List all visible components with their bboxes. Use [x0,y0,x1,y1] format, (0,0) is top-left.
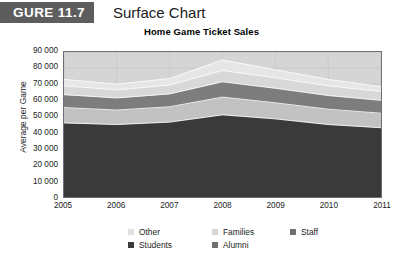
legend-label: Families [223,228,254,237]
legend-label: Staff [301,228,318,237]
legend-item-alumni[interactable]: Alumni [212,239,254,251]
legend-swatch-icon [128,229,134,235]
x-axis-tick-label: 2009 [267,201,285,210]
x-axis-tick-label: 2007 [160,201,178,210]
y-tick-text: 70 000 [0,80,58,88]
legend-column: Staff [290,226,318,239]
legend-item-families[interactable]: Families [212,226,254,238]
chart-legend: OtherStudentsFamiliesAlumniStaff [0,222,403,260]
legend-label: Students [139,241,172,250]
legend-item-other[interactable]: Other [128,226,172,238]
x-axis-tick-label: 2006 [107,201,125,210]
x-axis-tick-label: 2011 [373,201,391,210]
area-band-students [64,115,381,197]
x-axis-tick-label: 2010 [320,201,338,210]
legend-item-staff[interactable]: Staff [290,226,318,238]
y-tick-text: 80 000 [0,63,58,71]
y-tick-text: 20 000 [0,161,58,169]
legend-swatch-icon [128,242,134,248]
y-tick-text: 30 000 [0,145,58,153]
legend-swatch-icon [290,229,296,235]
y-tick-text: 0 [0,194,58,202]
y-tick-text: 60 000 [0,96,58,104]
y-tick-text: 10 000 [0,178,58,186]
x-axis-ticks: 2005200620072008200920102011 [63,201,384,215]
legend-label: Other [139,228,160,237]
x-axis-tick-label: 2005 [54,201,72,210]
figure-header: GURE 11.7 Surface Chart [0,2,403,24]
chart-container: Home Game Ticket Sales Average per Game … [0,24,403,220]
stacked-area-svg [64,52,381,197]
y-axis-ticks: 010 00020 00030 00040 00050 00060 00070 … [0,51,60,198]
y-tick-text: 90 000 [0,47,58,55]
legend-label: Alumni [223,241,249,250]
plot-area [63,51,382,198]
legend-column: FamiliesAlumni [212,226,254,252]
figure-number-badge: GURE 11.7 [0,2,94,23]
legend-swatch-icon [212,242,218,248]
y-tick-text: 50 000 [0,112,58,120]
legend-item-students[interactable]: Students [128,239,172,251]
legend-column: OtherStudents [128,226,172,252]
figure-title: Surface Chart [113,2,206,23]
chart-title: Home Game Ticket Sales [0,26,403,37]
x-axis-tick-label: 2008 [213,201,231,210]
y-tick-text: 40 000 [0,129,58,137]
legend-swatch-icon [212,229,218,235]
